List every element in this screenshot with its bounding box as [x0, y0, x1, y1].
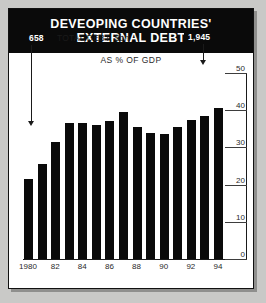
series-label: TOTAL DEBT, $bn [57, 33, 129, 43]
x-tick-label-1986: 86 [105, 262, 114, 271]
start-callout-arrowhead [28, 121, 34, 126]
end-total-debt-badge: 1,945 [184, 30, 214, 44]
bar-1994 [213, 108, 223, 259]
bar-1992 [186, 120, 196, 260]
x-axis: 198082848688909294 [23, 262, 223, 276]
y-tick-label-30: 30 [225, 138, 245, 147]
y-tick-50 [225, 73, 247, 74]
bar-1984 [77, 123, 87, 259]
y-tick-label-40: 40 [225, 101, 245, 110]
bar-1990 [159, 134, 169, 259]
bar-1985 [91, 125, 101, 259]
y-tick-0 [225, 259, 247, 260]
x-tick-label-1984: 84 [78, 262, 87, 271]
bar-1981 [37, 164, 47, 259]
bar-1993 [199, 116, 209, 259]
bar-1988 [132, 127, 142, 259]
bar-1982 [50, 142, 60, 259]
bar-1989 [145, 133, 155, 259]
end-callout-arrowhead [200, 60, 206, 65]
x-tick-label-1994: 94 [214, 262, 223, 271]
x-tick-label-1992: 92 [186, 262, 195, 271]
bar-1983 [64, 123, 74, 259]
y-tick-20 [225, 185, 247, 186]
y-axis-line [246, 73, 247, 260]
x-tick-label-1982: 82 [51, 262, 60, 271]
x-axis-line [23, 259, 247, 260]
chart-title-line-1: DEVEOPING COUNTRIES' [50, 17, 211, 32]
plot-area [23, 73, 223, 259]
x-tick-label-1980: 1980 [19, 262, 37, 271]
y-tick-30 [225, 147, 247, 148]
x-tick-label-1990: 90 [159, 262, 168, 271]
y-tick-label-0: 0 [225, 250, 245, 259]
y-tick-label-10: 10 [225, 213, 245, 222]
chart-figure: DEVEOPING COUNTRIES' EXTERNAL DEBT AS % … [0, 0, 266, 303]
start-callout-leader-line [31, 45, 32, 122]
x-tick-label-1988: 88 [132, 262, 141, 271]
bar-1980 [23, 179, 33, 259]
chart-subtitle: AS % OF GDP [9, 55, 253, 65]
y-tick-label-20: 20 [225, 176, 245, 185]
y-tick-label-50: 50 [225, 64, 245, 73]
bar-1987 [118, 112, 128, 259]
start-total-debt-badge: 658 [25, 31, 48, 45]
y-tick-10 [225, 222, 247, 223]
bar-1991 [172, 127, 182, 259]
chart-card: DEVEOPING COUNTRIES' EXTERNAL DEBT AS % … [8, 8, 254, 289]
end-callout-leader-line [203, 44, 204, 61]
y-tick-40 [225, 110, 247, 111]
bar-series [23, 73, 223, 259]
bar-1986 [104, 121, 114, 259]
